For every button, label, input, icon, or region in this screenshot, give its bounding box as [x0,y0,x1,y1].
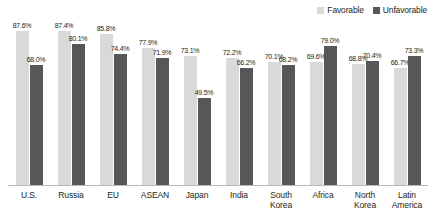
bar-group: 66.7%73.3% [386,24,428,185]
bar-rect[interactable] [268,62,281,185]
x-axis-labels: U.S.RussiaEUASEANJapanIndiaSouth KoreaAf… [8,190,428,210]
bar-favorable[interactable]: 73.1% [184,24,197,185]
bar-group: 87.6%68.0% [8,24,50,185]
bar-rect[interactable] [282,65,295,185]
bar-value-label: 85.8% [97,25,116,33]
bar-value-label: 69.6% [307,53,326,61]
bar-favorable[interactable]: 87.6% [16,24,29,185]
bar-rect[interactable] [30,65,43,185]
x-axis-label: EU [92,190,134,210]
bar-unfavorable[interactable]: 74.4% [114,24,127,185]
bar-value-label: 87.6% [13,22,32,30]
bar-unfavorable[interactable]: 71.9% [156,24,169,185]
bar-value-label: 68.0% [27,56,46,64]
x-axis-label: ASEAN [134,190,176,210]
chart-legend: Favorable Unfavorable [317,4,427,16]
bar-unfavorable[interactable]: 49.5% [198,24,211,185]
plot-area: 87.6%68.0%87.4%80.1%85.8%74.4%77.9%71.9%… [0,24,434,186]
bar-group: 72.2%66.2% [218,24,260,185]
x-axis-label: Russia [50,190,92,210]
bar-rect[interactable] [240,68,253,185]
bar-unfavorable[interactable]: 80.1% [72,24,85,185]
bar-unfavorable[interactable]: 70.4% [366,24,379,185]
bar-unfavorable[interactable]: 68.2% [282,24,295,185]
x-axis-label: North Korea [344,190,386,210]
bar-group: 68.8%70.4% [344,24,386,185]
bar-favorable[interactable]: 70.1% [268,24,281,185]
bar-value-label: 80.1% [69,35,88,43]
bar-rect[interactable] [16,31,29,185]
bar-rect[interactable] [184,56,197,185]
bar-unfavorable[interactable]: 68.0% [30,24,43,185]
bar-group: 77.9%71.9% [134,24,176,185]
legend-item-favorable: Favorable [317,6,363,15]
bar-value-label: 77.9% [139,39,158,47]
bar-rect[interactable] [366,61,379,185]
bar-value-label: 73.1% [181,47,200,55]
bar-favorable[interactable]: 72.2% [226,24,239,185]
bar-group: 70.1%68.2% [260,24,302,185]
bar-value-label: 73.3% [405,47,424,55]
legend-label-favorable: Favorable [327,6,363,15]
bar-group: 87.4%80.1% [50,24,92,185]
bar-rect[interactable] [156,58,169,185]
bar-rect[interactable] [324,46,337,185]
bar-value-label: 87.4% [55,22,74,30]
bar-value-label: 72.2% [223,49,242,57]
bar-value-label: 66.7% [391,59,410,67]
bar-value-label: 49.5% [195,89,214,97]
bar-rect[interactable] [394,68,407,185]
bar-unfavorable[interactable]: 66.2% [240,24,253,185]
bar-unfavorable[interactable]: 73.3% [408,24,421,185]
legend-item-unfavorable: Unfavorable [373,6,427,15]
bar-groups: 87.6%68.0%87.4%80.1%85.8%74.4%77.9%71.9%… [8,24,428,185]
x-axis-label: India [218,190,260,210]
bar-group: 85.8%74.4% [92,24,134,185]
bar-rect[interactable] [100,34,113,185]
legend-swatch-favorable [317,7,324,14]
axis-baseline [8,185,428,186]
bar-rect[interactable] [72,44,85,185]
x-axis-label: Latin America [386,190,428,210]
bar-rect[interactable] [114,54,127,185]
bar-favorable[interactable]: 87.4% [58,24,71,185]
bar-favorable[interactable]: 68.8% [352,24,365,185]
bar-value-label: 70.4% [363,52,382,60]
bar-rect[interactable] [408,56,421,185]
bar-value-label: 79.0% [321,37,340,45]
legend-label-unfavorable: Unfavorable [383,6,427,15]
bar-rect[interactable] [142,48,155,185]
x-axis-label: Africa [302,190,344,210]
bar-rect[interactable] [352,64,365,185]
bar-rect[interactable] [58,31,71,185]
x-axis-label: U.S. [8,190,50,210]
legend-swatch-unfavorable [373,7,380,14]
bar-group: 73.1%49.5% [176,24,218,185]
bar-rect[interactable] [198,98,211,185]
bar-value-label: 68.2% [279,56,298,64]
bar-rect[interactable] [226,58,239,185]
bar-group: 69.6%79.0% [302,24,344,185]
bar-rect[interactable] [310,62,323,185]
bar-value-label: 66.2% [237,59,256,67]
bar-value-label: 71.9% [153,49,172,57]
bar-value-label: 74.4% [111,45,130,53]
bar-unfavorable[interactable]: 79.0% [324,24,337,185]
bar-favorable[interactable]: 69.6% [310,24,323,185]
bar-chart: Favorable Unfavorable 87.6%68.0%87.4%80.… [0,0,434,224]
x-axis-label: South Korea [260,190,302,210]
x-axis-label: Japan [176,190,218,210]
